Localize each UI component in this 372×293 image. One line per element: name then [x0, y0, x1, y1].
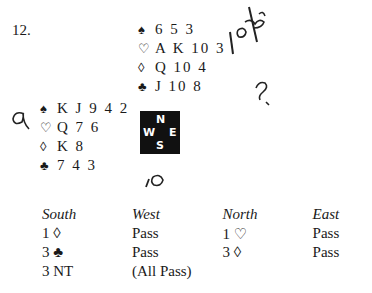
compass-north: N	[156, 113, 165, 126]
north-diamonds: ◊ Q 10 4	[138, 58, 226, 77]
north-hand: ♠ 6 5 3 ♡ A K 10 3 ◊ Q 10 4 ♣ J 10 8	[138, 20, 226, 96]
bid: 3 ♣	[42, 243, 132, 262]
heart-icon: ♡	[40, 118, 57, 137]
west-clubs: ♣ 7 4 3	[40, 156, 129, 175]
auction-header-row: South West North East	[42, 205, 372, 224]
auction-row: 1 ◊ Pass 1 ♡ Pass	[42, 224, 372, 243]
handwritten-10-icon	[143, 171, 167, 191]
header-south: South	[42, 205, 132, 224]
handwritten-a-icon	[10, 108, 38, 132]
bid: Pass	[313, 243, 372, 262]
west-spades: ♠ K J 9 4 2	[40, 99, 129, 118]
diamond-icon: ◊	[40, 137, 57, 156]
north-spades: ♠ 6 5 3	[138, 20, 226, 39]
handwritten-question-icon	[252, 80, 274, 106]
club-icon: ♣	[138, 77, 155, 96]
auction-row: 3 ♣ Pass 3 ◊ Pass	[42, 243, 372, 262]
bid: 1 ♡	[223, 224, 313, 243]
bid: 3 ◊	[223, 243, 313, 262]
spade-icon: ♠	[138, 20, 155, 39]
bid: 3 NT	[42, 262, 132, 281]
west-hearts: ♡ Q 7 6	[40, 118, 129, 137]
header-east: East	[313, 205, 372, 224]
auction-table: South West North East 1 ◊ Pass 1 ♡ Pass …	[42, 205, 372, 281]
handwritten-10-clubs-icon	[225, 2, 285, 57]
bid	[313, 262, 372, 281]
heart-icon: ♡	[138, 39, 155, 58]
compass-south: S	[156, 139, 164, 152]
west-diamonds: ◊ K 8	[40, 137, 129, 156]
header-west: West	[132, 205, 222, 224]
north-hearts: ♡ A K 10 3	[138, 39, 226, 58]
compass-east: E	[169, 126, 177, 139]
bid: Pass	[313, 224, 372, 243]
bid: Pass	[132, 243, 222, 262]
compass-box: N W E S	[140, 111, 180, 154]
problem-number: 12.	[12, 22, 31, 39]
diamond-icon: ◊	[138, 58, 155, 77]
bid: Pass	[132, 224, 222, 243]
club-icon: ♣	[40, 156, 57, 175]
compass-west: W	[143, 126, 155, 139]
spade-icon: ♠	[40, 99, 57, 118]
bid: 1 ◊	[42, 224, 132, 243]
north-clubs: ♣ J 10 8	[138, 77, 226, 96]
header-north: North	[223, 205, 313, 224]
west-hand: ♠ K J 9 4 2 ♡ Q 7 6 ◊ K 8 ♣ 7 4 3	[40, 99, 129, 175]
auction-row: 3 NT (All Pass)	[42, 262, 372, 281]
bid	[223, 262, 313, 281]
bid: (All Pass)	[132, 262, 222, 281]
